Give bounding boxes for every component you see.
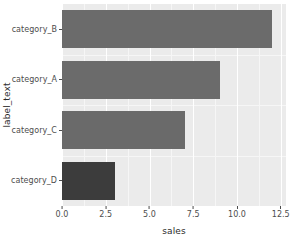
x-tick-label: 2.5 (99, 210, 112, 219)
x-tick-label: 5.0 (143, 210, 156, 219)
x-tick-label: 12.5 (272, 210, 290, 219)
x-tick-label: 10.0 (228, 210, 246, 219)
x-tick-5.0: 5.0 (143, 206, 156, 219)
bar-category_D (62, 162, 115, 200)
y-tick-category_A: category_A (12, 74, 62, 86)
x-tick-10.0: 10.0 (228, 206, 246, 219)
gridline-horizontal-minor (62, 156, 286, 157)
x-axis-ticks: 0.02.55.07.510.012.5 (0, 206, 300, 226)
x-tick-mark (62, 206, 63, 209)
x-tick-mark (149, 206, 150, 209)
x-tick-7.5: 7.5 (187, 206, 200, 219)
x-tick-mark (236, 206, 237, 209)
x-axis-title: sales (62, 226, 286, 236)
x-tick-0.0: 0.0 (56, 206, 69, 219)
y-tick-label: category_C (12, 126, 57, 135)
x-tick-mark (105, 206, 106, 209)
x-tick-label: 7.5 (187, 210, 200, 219)
bar-category_B (62, 10, 272, 48)
y-tick-label: category_D (11, 176, 57, 185)
y-tick-category_C: category_C (12, 124, 62, 136)
x-tick-2.5: 2.5 (99, 206, 112, 219)
gridline-horizontal-minor (62, 105, 286, 106)
gridline-horizontal-minor (62, 55, 286, 56)
x-tick-mark (280, 206, 281, 209)
gridline-vertical-major (281, 4, 282, 206)
y-tick-category_D: category_D (11, 175, 62, 187)
plot-panel (62, 4, 286, 206)
x-tick-12.5: 12.5 (272, 206, 290, 219)
bar-category_A (62, 61, 220, 99)
x-tick-label: 0.0 (56, 210, 69, 219)
y-tick-label: category_A (12, 75, 57, 84)
y-axis-title-label: label_text (2, 82, 12, 127)
y-tick-category_B: category_B (12, 23, 62, 35)
x-tick-mark (193, 206, 194, 209)
y-tick-label: category_B (12, 25, 57, 34)
x-axis-title-label: sales (162, 226, 185, 236)
bar-category_C (62, 111, 185, 149)
bar-chart: label_text category_Bcategory_Acategory_… (0, 0, 300, 243)
